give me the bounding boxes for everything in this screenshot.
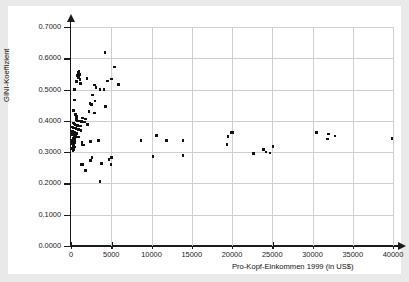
y-axis-arrow-icon [67,14,75,22]
gridline-horizontal [71,58,393,59]
data-point [99,180,102,183]
data-point [110,78,113,81]
y-tick [64,27,71,28]
data-point [110,163,113,166]
data-point [81,163,84,166]
data-point [81,141,84,144]
scatter-plot-area [71,27,393,246]
data-point [140,139,143,142]
data-point [165,139,168,142]
gridline-vertical [353,27,354,246]
data-point [326,138,329,141]
data-point [104,51,107,54]
data-point [75,80,78,83]
y-tick-label: 0.4000 [38,117,61,125]
gridline-horizontal [71,27,393,28]
y-tick [64,183,71,184]
data-point [99,88,102,91]
gridline-vertical [111,27,112,246]
y-tick [64,215,71,216]
data-point [155,134,158,137]
data-point [80,129,83,132]
y-tick-label: 0.2000 [38,179,61,187]
gridline-vertical [232,27,233,246]
gridline-horizontal [71,152,393,153]
data-point [315,131,318,134]
gridline-vertical [313,27,314,246]
data-point [95,86,98,89]
data-point [104,105,107,108]
x-tick-label: 40000 [368,251,409,259]
x-axis-title: Pro-Kopf-Einkommen 1999 (in US$) [232,262,354,271]
y-tick-label: 0.1000 [38,211,61,219]
data-point [152,155,155,158]
y-tick [64,90,71,91]
data-point [89,159,92,162]
data-point [86,77,89,80]
data-point [232,131,235,134]
data-point [252,152,255,155]
data-point [79,78,82,81]
data-point [226,143,229,146]
data-point [117,83,120,86]
y-axis-title: GINI-Koeffizient [2,0,11,102]
gridline-vertical [152,27,153,246]
data-point [93,112,96,115]
data-point [265,151,268,154]
x-axis-arrow-icon [398,242,406,250]
y-tick [64,246,71,247]
gridline-vertical [272,27,273,246]
data-point [103,88,106,91]
y-tick [64,121,71,122]
data-point [79,125,82,128]
y-tick-label: 0.0000 [38,242,61,250]
gridline-horizontal [71,121,393,122]
data-point [272,145,275,148]
data-point [182,154,185,157]
chart-page: 0.00000.10000.20000.30000.40000.50000.60… [0,0,409,282]
y-tick-label: 0.5000 [38,86,61,94]
data-point [73,88,76,91]
data-point [83,144,86,147]
data-point [110,156,113,159]
data-point [100,162,103,165]
gridline-horizontal [71,183,393,184]
data-point [94,100,97,103]
data-point [97,139,100,142]
chart-card: 0.00000.10000.20000.30000.40000.50000.60… [8,6,401,274]
y-tick-label: 0.6000 [38,54,61,62]
y-tick-label: 0.7000 [38,23,61,31]
data-point [269,152,272,155]
data-point [72,109,75,112]
data-point [182,139,185,142]
data-point [86,123,89,126]
data-point [106,80,109,83]
data-point [73,99,76,102]
data-point [72,149,75,152]
data-point [77,136,80,139]
data-point [227,135,230,138]
data-point [327,133,330,136]
gridline-horizontal [71,215,393,216]
data-point [90,103,93,106]
data-point [84,169,87,172]
data-point [113,66,116,69]
y-tick [64,58,71,59]
data-point [88,110,91,113]
data-point [334,135,337,138]
data-point [79,82,82,85]
data-point [89,140,92,143]
gridline-horizontal [71,90,393,91]
data-point [83,121,86,124]
y-tick-label: 0.3000 [38,148,61,156]
data-point [91,94,94,97]
gridline-vertical [192,27,193,246]
data-point [391,137,394,140]
y-tick [64,152,71,153]
